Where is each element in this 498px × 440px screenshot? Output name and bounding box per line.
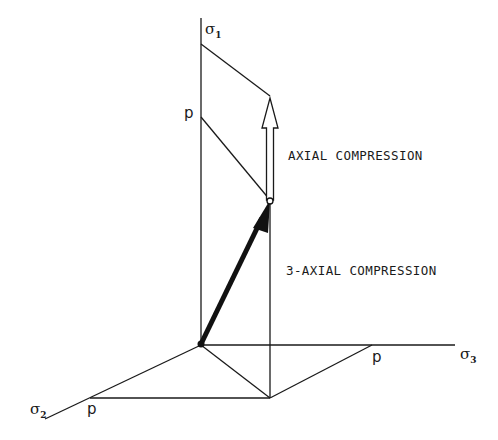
state-point-node [267,198,273,204]
stress-space-diagram [0,0,498,440]
triaxial-compression-arrow [201,200,270,344]
origin-node [198,341,205,348]
base-diagonal [201,345,270,398]
p-sigma1-projection [201,117,270,200]
sigma2-label: σ2 [30,400,47,420]
sigma1-top-projection [201,44,270,96]
base-p-sigma3 [270,345,372,398]
axial-compression-arrow [262,98,278,200]
triaxial-compression-label: 3-AXIAL COMPRESSION [286,263,437,278]
p-label-sigma2: p [87,400,97,418]
p-label-sigma1: p [184,104,194,122]
p-label-sigma3: p [372,348,382,366]
sigma2-axis [45,345,201,419]
sigma3-label: σ3 [460,345,477,365]
axial-compression-label: AXIAL COMPRESSION [288,148,423,163]
sigma1-label: σ1 [205,20,222,40]
